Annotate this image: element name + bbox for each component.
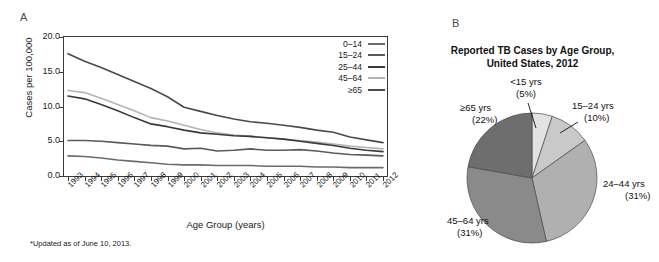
legend-item: 45–64 xyxy=(300,73,385,85)
legend-item-label: 0–14 xyxy=(343,39,362,49)
y-tick-label: 20.0 xyxy=(30,31,60,41)
pie-svg xyxy=(400,0,659,262)
y-tick-label: 5.0 xyxy=(30,135,60,145)
pie-label-under15-pct: (5%) xyxy=(516,88,536,99)
line-series-1524 xyxy=(68,141,383,156)
footnote: *Updated as of June 10, 2013. xyxy=(30,239,131,248)
legend-item-label: 15–24 xyxy=(338,50,362,60)
legend-item: ≥65 xyxy=(300,84,385,96)
pie-label-24-44: 24–44 yrs (31%) xyxy=(603,178,650,202)
x-axis-title: Age Group (years) xyxy=(63,219,388,230)
pie-label-45-64-pct: (31%) xyxy=(457,227,482,239)
legend-color-swatch xyxy=(368,77,385,79)
pie-label-under15: <15 yrs (5%) xyxy=(472,76,580,100)
figure-root: A Cases per 100,000 20.0 15.0 10.0 5.0 0… xyxy=(0,0,659,262)
pie-label-65plus-pct: (22%) xyxy=(472,114,497,126)
panel-b-pie-chart: B Reported TB Cases by Age Group, United… xyxy=(400,0,659,262)
line-series-014 xyxy=(68,156,383,168)
legend-item-label: ≥65 xyxy=(348,85,362,95)
legend-color-swatch xyxy=(368,66,385,68)
pie-label-65plus: ≥65 yrs (22%) xyxy=(460,102,497,126)
y-tick-label: 10.0 xyxy=(30,101,60,111)
legend-item-label: 25–44 xyxy=(338,62,362,72)
panel-a-line-chart: A Cases per 100,000 20.0 15.0 10.0 5.0 0… xyxy=(0,0,400,262)
legend-item: 25–44 xyxy=(300,61,385,73)
legend-item: 15–24 xyxy=(300,50,385,62)
pie-label-45-64: 45–64 yrs (31%) xyxy=(447,215,489,239)
y-tick-label: 15.0 xyxy=(30,66,60,76)
pie-label-15-24-pct: (10%) xyxy=(584,112,609,124)
pie-label-65plus-name: ≥65 yrs xyxy=(460,102,491,113)
pie-label-15-24: 15–24 yrs (10%) xyxy=(572,100,614,124)
pie-label-under15-name: <15 yrs xyxy=(510,76,541,87)
legend-color-swatch xyxy=(368,54,385,56)
line-series-4564 xyxy=(68,91,383,149)
legend-item: 0–14 xyxy=(300,38,385,50)
chart-legend: 0–1415–2425–4445–64≥65 xyxy=(300,38,385,96)
legend-color-swatch xyxy=(368,89,385,91)
y-axis-tick-labels: 20.0 15.0 10.0 5.0 0.0 xyxy=(20,0,60,262)
pie-label-45-64-name: 45–64 yrs xyxy=(447,215,489,226)
line-series-2544 xyxy=(68,96,383,152)
legend-item-label: 45–64 xyxy=(338,73,362,83)
pie-label-24-44-name: 24–44 yrs xyxy=(603,178,645,189)
legend-color-swatch xyxy=(368,43,385,45)
pie-label-24-44-pct: (31%) xyxy=(625,190,650,202)
y-tick-label: 0.0 xyxy=(30,170,60,180)
pie-label-15-24-name: 15–24 yrs xyxy=(572,100,614,111)
